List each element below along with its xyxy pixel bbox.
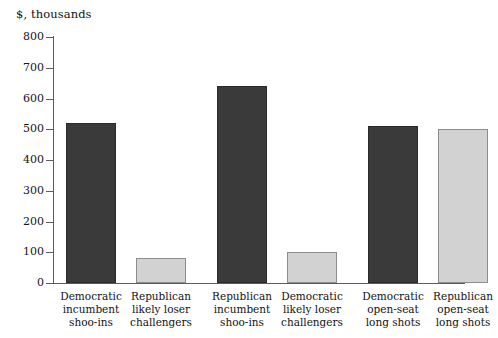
chart-title: $, thousands (16, 7, 92, 21)
y-axis-tick-label: 300 (2, 185, 44, 196)
x-axis-category-label: Republican likely loser challengers (123, 290, 199, 330)
y-axis-tick-label: 600 (2, 93, 44, 104)
y-axis-tick-label: 200 (2, 216, 44, 227)
y-axis-tick (46, 252, 54, 253)
y-axis-tick (46, 68, 54, 69)
bar (438, 129, 488, 283)
bar (217, 86, 267, 283)
bar (368, 126, 418, 283)
y-axis-tick-label: 400 (2, 154, 44, 165)
bar (66, 123, 116, 283)
plot-area (54, 37, 464, 283)
y-axis-tick-label: 800 (2, 31, 44, 42)
x-axis-category-label: Republican open-seat long shots (425, 290, 498, 330)
y-axis-tick-label: 700 (2, 62, 44, 73)
y-axis-tick-label: 100 (2, 246, 44, 257)
y-axis-tick-label: 0 (2, 277, 44, 288)
x-axis-category-label: Republican incumbent shoo-ins (204, 290, 280, 330)
y-axis-tick (46, 222, 54, 223)
y-axis-tick (46, 160, 54, 161)
y-axis-tick (46, 129, 54, 130)
y-axis-tick (46, 283, 54, 284)
x-axis-category-label: Democratic open-seat long shots (355, 290, 431, 330)
y-axis-tick (46, 191, 54, 192)
x-axis-category-label: Democratic incumbent shoo-ins (53, 290, 129, 330)
bar (287, 252, 337, 283)
y-axis-tick (46, 99, 54, 100)
bar (136, 258, 186, 283)
x-axis-line (53, 283, 465, 284)
y-axis-tick (46, 37, 54, 38)
x-axis-category-label: Democratic likely loser challengers (274, 290, 350, 330)
y-axis-tick-label: 500 (2, 123, 44, 134)
